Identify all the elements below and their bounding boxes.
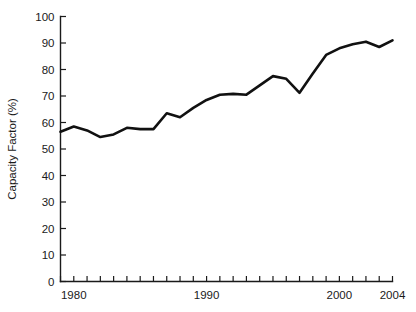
data-series-line bbox=[61, 40, 393, 137]
x-axis-tick-marks bbox=[61, 276, 393, 282]
x-tick-label: 2000 bbox=[327, 289, 353, 301]
y-tick-label: 10 bbox=[42, 249, 55, 261]
capacity-factor-line-chart: 0102030405060708090100 1980199020002004 … bbox=[0, 0, 416, 312]
x-tick-label: 2004 bbox=[380, 289, 406, 301]
y-tick-label: 60 bbox=[42, 117, 55, 129]
y-tick-label: 50 bbox=[42, 143, 55, 155]
y-axis-tick-labels: 0102030405060708090100 bbox=[35, 11, 54, 288]
y-tick-label: 90 bbox=[42, 37, 55, 49]
chart-figure: 0102030405060708090100 1980199020002004 … bbox=[0, 0, 416, 312]
y-tick-label: 0 bbox=[48, 276, 54, 288]
y-tick-label: 80 bbox=[42, 64, 55, 76]
x-axis-tick-labels: 1980199020002004 bbox=[61, 289, 406, 301]
y-tick-label: 40 bbox=[42, 170, 55, 182]
y-tick-label: 20 bbox=[42, 223, 55, 235]
x-tick-label: 1980 bbox=[61, 289, 87, 301]
y-axis-tick-marks bbox=[61, 17, 67, 282]
x-tick-label: 1990 bbox=[194, 289, 220, 301]
y-tick-label: 30 bbox=[42, 196, 55, 208]
y-axis-title: Capacity Factor (%) bbox=[6, 98, 18, 200]
y-tick-label: 70 bbox=[42, 90, 55, 102]
y-tick-label: 100 bbox=[35, 11, 54, 23]
